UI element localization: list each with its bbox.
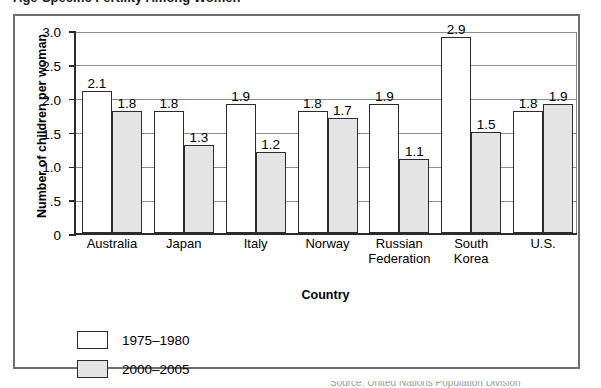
bar-value-label: 1.9	[375, 89, 394, 104]
x-axis-category-label: RussianFederation	[363, 236, 435, 266]
chart-legend: 1975–19802000–2005	[77, 328, 190, 386]
bar: 1.9	[226, 104, 256, 233]
bar-value-label: 1.1	[405, 144, 424, 159]
plot-inner: 0.51.01.52.02.53.02.11.8Australia1.81.3J…	[76, 32, 577, 233]
y-axis-tick	[69, 65, 76, 67]
y-axis-tick	[69, 167, 76, 169]
gray-swatch	[77, 360, 108, 378]
bar: 1.3	[184, 145, 214, 233]
cut-off-source-caption-text: Source: United Nations Population Divisi…	[330, 381, 590, 388]
x-axis-category-label-line: U.S.	[507, 236, 579, 251]
x-axis-category-label-line: South	[435, 236, 507, 251]
x-axis-category-label: SouthKorea	[435, 236, 507, 266]
bar-value-label: 1.8	[519, 96, 538, 111]
plot-right-edge	[576, 32, 577, 233]
y-axis-tick	[69, 31, 76, 33]
x-axis-category-label-line: Norway	[292, 236, 364, 251]
x-axis-category-label-line: Japan	[148, 236, 220, 251]
y-axis-tick-label: 2.5	[21, 58, 61, 73]
bar: 1.8	[112, 111, 142, 233]
bar-value-label: 1.8	[303, 96, 322, 111]
y-axis-tick-label: 2.0	[21, 92, 61, 107]
y-axis-tick	[69, 133, 76, 135]
x-axis-category-label-line: Federation	[363, 251, 435, 266]
x-axis-category-label: Australia	[76, 236, 148, 251]
x-axis-title: Country	[74, 288, 577, 302]
x-axis-category-label: Norway	[292, 236, 364, 251]
bar: 1.8	[154, 111, 184, 233]
y-axis-tick-label: 1.0	[21, 160, 61, 175]
y-axis-tick	[69, 99, 76, 101]
bar-value-label: 1.8	[159, 96, 178, 111]
bar: 1.8	[513, 111, 543, 233]
bar: 1.7	[328, 118, 358, 233]
bar: 2.1	[82, 91, 112, 233]
bar: 1.5	[471, 132, 501, 234]
y-axis-tick	[69, 200, 76, 202]
bar-value-label: 1.9	[231, 89, 250, 104]
x-axis-category-label-line: Italy	[220, 236, 292, 251]
x-axis-category-label-line: Russian	[363, 236, 435, 251]
legend-item: 1975–1980	[77, 328, 190, 352]
bar-value-label: 2.1	[88, 76, 107, 91]
y-axis-tick-label: 0	[21, 228, 61, 243]
bar: 1.8	[298, 111, 328, 233]
cut-off-figure-title-text: Age-Specific Fertility Among Women	[13, 0, 573, 5]
legend-item-label: 1975–1980	[122, 333, 190, 348]
x-axis-category-label-line: Australia	[76, 236, 148, 251]
x-axis-category-label: Italy	[220, 236, 292, 251]
white-swatch	[77, 331, 108, 349]
gridline	[76, 99, 577, 100]
bar-value-label: 1.7	[333, 103, 352, 118]
bar-value-label: 2.9	[447, 22, 466, 37]
gridline	[76, 32, 577, 33]
cut-off-figure-title: Age-Specific Fertility Among Women	[13, 0, 573, 5]
figure-frame: Number of children per woman 0.51.01.52.…	[13, 14, 580, 369]
bar: 1.9	[369, 104, 399, 233]
bar-value-label: 1.8	[118, 96, 137, 111]
bar: 1.9	[543, 104, 573, 233]
bar: 1.2	[256, 152, 286, 233]
y-axis-tick-label: 3.0	[21, 25, 61, 40]
legend-item: 2000–2005	[77, 357, 190, 381]
bar-value-label: 1.9	[549, 89, 568, 104]
gridline	[76, 65, 577, 66]
y-axis-tick-label: .5	[21, 194, 61, 209]
bar: 1.1	[399, 159, 429, 233]
x-axis-category-label-line: Korea	[435, 251, 507, 266]
y-axis-tick	[69, 234, 76, 236]
bar-value-label: 1.5	[477, 117, 496, 132]
cut-off-source-caption: Source: United Nations Population Divisi…	[330, 381, 590, 388]
y-axis-tick-label: 1.5	[21, 126, 61, 141]
bar: 2.9	[441, 37, 471, 233]
x-axis-category-label: U.S.	[507, 236, 579, 251]
bar-value-label: 1.2	[261, 137, 280, 152]
legend-item-label: 2000–2005	[122, 362, 190, 377]
x-axis-category-label: Japan	[148, 236, 220, 251]
bar-value-label: 1.3	[189, 130, 208, 145]
plot-area: 0.51.01.52.02.53.02.11.8Australia1.81.3J…	[74, 32, 577, 235]
